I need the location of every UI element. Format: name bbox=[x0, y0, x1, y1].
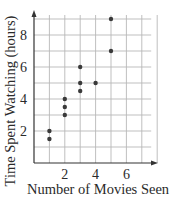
data-point bbox=[78, 81, 82, 85]
data-point bbox=[63, 113, 67, 117]
y-tick-label: 4 bbox=[20, 92, 27, 107]
y-tick-label: 8 bbox=[20, 28, 27, 43]
data-point bbox=[93, 81, 97, 85]
y-axis-title: Time Spent Watching (hours) bbox=[2, 16, 19, 187]
x-tick-label: 6 bbox=[123, 167, 130, 182]
data-point bbox=[47, 137, 51, 141]
data-point bbox=[63, 105, 67, 109]
data-point bbox=[109, 17, 113, 21]
x-tick-label: 4 bbox=[92, 167, 99, 182]
y-tick-label: 2 bbox=[20, 124, 27, 139]
data-point bbox=[63, 97, 67, 101]
data-point bbox=[47, 129, 51, 133]
data-point bbox=[78, 89, 82, 93]
x-axis-title: Number of Movies Seen bbox=[27, 181, 169, 198]
scatter-chart: 2462468 bbox=[0, 0, 177, 203]
data-point bbox=[109, 49, 113, 53]
y-tick-label: 6 bbox=[20, 60, 27, 75]
y-axis-arrow-icon bbox=[32, 10, 37, 17]
axes bbox=[32, 10, 159, 166]
x-tick-label: 2 bbox=[61, 167, 68, 182]
data-point bbox=[78, 65, 82, 69]
grid-lines bbox=[34, 15, 157, 163]
